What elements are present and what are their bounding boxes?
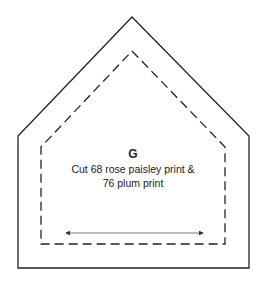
cutting-line bbox=[18, 17, 249, 268]
piece-letter: G bbox=[0, 147, 266, 161]
pattern-template-diagram bbox=[0, 0, 272, 281]
cut-instruction-line-1: Cut 68 rose paisley print & bbox=[0, 163, 266, 175]
cut-instruction-line-2: 76 plum print bbox=[0, 177, 266, 189]
